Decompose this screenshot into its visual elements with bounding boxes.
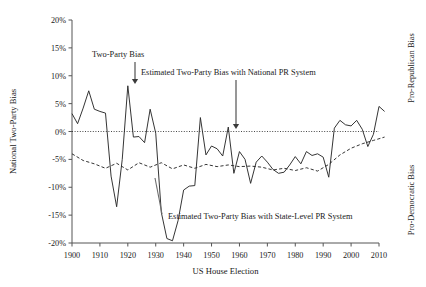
chart-canvas: 20%15%10%5%0%-5%-10%-15%-20%190019101920… xyxy=(0,0,426,287)
x-tick-label: 1930 xyxy=(148,251,164,260)
side-label-pro-republican: Pro-Republican Bias xyxy=(407,33,416,103)
x-tick-label: 1920 xyxy=(120,251,136,260)
x-tick-label: 1990 xyxy=(315,251,331,260)
y-tick-label: 10% xyxy=(51,72,66,81)
x-axis-title: US House Election xyxy=(193,266,260,276)
y-tick-label: 0% xyxy=(55,128,66,137)
x-tick-label: 1980 xyxy=(287,251,303,260)
y-tick-label: -5% xyxy=(52,155,66,164)
y-tick-label: -20% xyxy=(48,239,66,248)
chart-figure: 20%15%10%5%0%-5%-10%-15%-20%190019101920… xyxy=(0,0,426,287)
y-tick-label: -15% xyxy=(48,211,66,220)
state-level-pr-leader-line xyxy=(155,178,162,214)
x-tick-label: 2000 xyxy=(343,251,359,260)
y-tick-label: 15% xyxy=(51,44,66,53)
x-tick-label: 1900 xyxy=(64,251,80,260)
x-tick-label: 1950 xyxy=(203,251,219,260)
annotation-national-pr: Estimated Two-Party Bias with National P… xyxy=(141,68,316,77)
y-tick-label: 20% xyxy=(51,16,66,25)
x-tick-label: 1940 xyxy=(175,251,191,260)
side-label-pro-democratic: Pro-Democratic Bias xyxy=(407,165,416,235)
national-pr-arrow-head xyxy=(233,124,239,129)
x-tick-label: 2010 xyxy=(371,251,387,260)
x-tick-label: 1970 xyxy=(259,251,275,260)
x-tick-label: 1960 xyxy=(231,251,247,260)
annotation-two-party-bias: Two-Party Bias xyxy=(92,50,144,59)
y-tick-label: -10% xyxy=(48,183,66,192)
two-party-bias-arrow-head xyxy=(132,79,138,84)
y-tick-label: 5% xyxy=(55,100,66,109)
series-dashed xyxy=(72,137,385,171)
y-axis-title: National Two-Party Bias xyxy=(8,88,18,174)
x-tick-label: 1910 xyxy=(92,251,108,260)
annotation-state-level-pr: Estimated Two-Party Bias with State-Leve… xyxy=(168,212,353,221)
